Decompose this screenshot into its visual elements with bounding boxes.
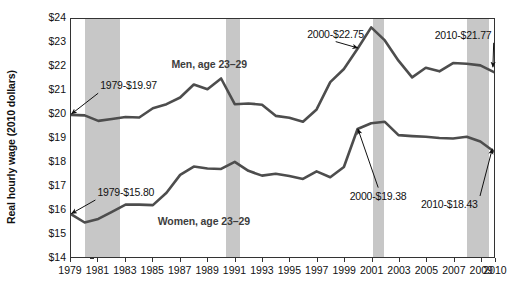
x-tick-mark <box>152 258 153 262</box>
x-tick-mark <box>70 258 71 262</box>
y-tick-label: $17 <box>32 180 66 191</box>
x-tick-mark <box>454 258 455 262</box>
series-label-men-label: Men, age 23–29 <box>171 58 247 70</box>
x-tick-label: 1995 <box>278 264 301 276</box>
x-tick-mark <box>262 258 263 262</box>
x-tick-label: 1983 <box>113 264 136 276</box>
y-tick-label: $19 <box>32 132 66 143</box>
annotation-men-2000: 2000-$22.75 <box>307 28 364 40</box>
x-tick-label: 2001 <box>360 264 383 276</box>
x-tick-label: 1997 <box>305 264 328 276</box>
x-tick-label: 1999 <box>333 264 356 276</box>
x-tick-mark <box>481 258 482 262</box>
x-tick-label: 2003 <box>387 264 410 276</box>
x-tick-label: 1981 <box>86 264 109 276</box>
x-tick-label: 1987 <box>168 264 191 276</box>
y-tick-label: $23 <box>32 36 66 47</box>
x-tick-label: 2005 <box>415 264 438 276</box>
series-lines <box>71 19 494 257</box>
x-tick-mark <box>495 258 496 262</box>
x-tick-mark <box>399 258 400 262</box>
annotation-women-1979: 1979-$15.80 <box>97 186 154 198</box>
x-tick-mark <box>289 258 290 262</box>
series-line <box>71 27 494 121</box>
y-tick-label: $22 <box>32 60 66 71</box>
x-tick-mark <box>180 258 181 262</box>
x-tick-mark <box>97 258 98 262</box>
y-tick-label: $18 <box>32 156 66 167</box>
annotation-men-1979: 1979-$19.97 <box>100 79 157 91</box>
x-tick-mark <box>426 258 427 262</box>
x-tick-label: 1991 <box>223 264 246 276</box>
plot-area <box>70 18 495 258</box>
chart-container: Real hourly wage (2010 dollars) $24$23$2… <box>0 0 515 294</box>
series-label-women-label: Women, age 23–29 <box>158 215 250 227</box>
x-tick-mark <box>317 258 318 262</box>
annotation-men-2010: 2010-$21.77 <box>435 29 492 41</box>
annotation-women-2000: 2000-$19.38 <box>350 190 407 202</box>
annotation-women-2010: 2010-$18.43 <box>421 198 478 210</box>
x-tick-label: 2010 <box>483 264 506 276</box>
y-tick-label: $24 <box>32 12 66 23</box>
x-tick-mark <box>344 258 345 262</box>
x-axis-ticks: 1979198119831985198719891991199319951997… <box>0 258 515 294</box>
x-tick-label: 1985 <box>141 264 164 276</box>
x-tick-label: 1993 <box>250 264 273 276</box>
x-tick-label: 1979 <box>58 264 81 276</box>
x-tick-mark <box>372 258 373 262</box>
y-tick-label: $16 <box>32 204 66 215</box>
x-tick-mark <box>235 258 236 262</box>
y-tick-label: $15 <box>32 228 66 239</box>
x-tick-label: 1989 <box>195 264 218 276</box>
x-tick-mark <box>207 258 208 262</box>
y-tick-label: $21 <box>32 84 66 95</box>
y-tick-label: $20 <box>32 108 66 119</box>
x-tick-label: 2007 <box>442 264 465 276</box>
x-tick-mark <box>125 258 126 262</box>
y-axis-title: Real hourly wage (2010 dollars) <box>0 0 22 294</box>
y-axis-ticks: $24$23$22$21$20$19$18$17$16$15$14 <box>26 0 66 294</box>
